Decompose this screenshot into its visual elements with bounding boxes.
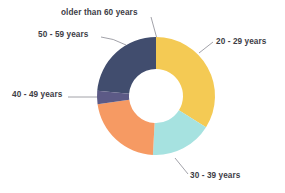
donut-slice[interactable]: [97, 37, 156, 94]
donut-chart: older than 60 years 50 - 59 years 40 - 4…: [0, 0, 285, 193]
slice-label-20-29: 20 - 29 years: [216, 38, 266, 46]
slice-label-30-39: 30 - 39 years: [190, 172, 240, 180]
leader-line-30-39: [175, 158, 188, 174]
leader-line-20-29: [199, 42, 213, 53]
leader-line-50-59: [101, 37, 126, 45]
donut-slice-group: [97, 37, 215, 155]
donut-slice[interactable]: [98, 100, 155, 155]
slice-label-older-than-60: older than 60 years: [61, 9, 138, 17]
slice-label-40-49: 40 - 49 years: [12, 91, 62, 99]
donut-slice[interactable]: [156, 37, 215, 127]
slice-label-50-59: 50 - 59 years: [38, 31, 88, 39]
leader-line-older-than-60: [151, 17, 157, 37]
